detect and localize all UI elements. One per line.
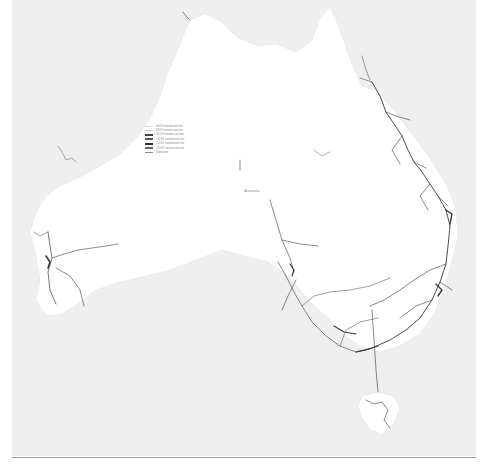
country-label: Australia <box>244 188 260 193</box>
legend-swatch-66kv <box>145 126 153 127</box>
bottom-divider <box>12 457 476 458</box>
tasmania-landmass <box>358 392 400 434</box>
australia-map-svg <box>12 0 476 456</box>
legend-label: Substation <box>156 151 168 154</box>
legend-label: 88 kV transmission line <box>156 129 183 132</box>
legend-swatch-275kv <box>145 147 153 149</box>
legend-item: Substation <box>145 150 205 154</box>
map-canvas[interactable]: 66 kV transmission line 88 kV transmissi… <box>12 0 476 456</box>
legend-swatch-110kv <box>145 134 153 136</box>
mainland-landmass <box>30 12 458 352</box>
legend-label: 66 kV transmission line <box>156 125 183 128</box>
legend-label: 220 kV transmission line <box>156 142 184 145</box>
legend-swatch-88kv <box>145 130 153 131</box>
map-legend: 66 kV transmission line 88 kV transmissi… <box>145 124 205 155</box>
legend-swatch-220kv <box>145 143 153 145</box>
legend-label: 275 kV transmission line <box>156 147 184 150</box>
legend-label: 132 kV transmission line <box>156 138 184 141</box>
legend-swatch-substation <box>145 152 153 153</box>
legend-swatch-132kv <box>145 138 153 140</box>
legend-label: 110 kV transmission line <box>156 133 184 136</box>
